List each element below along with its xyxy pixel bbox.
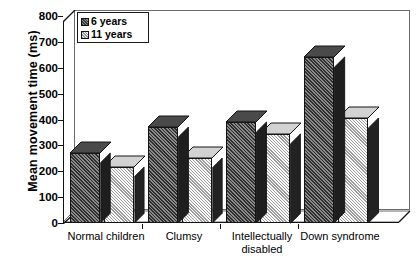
y-tick-mark-400	[58, 120, 63, 121]
bar-side-face	[178, 127, 189, 223]
y-tick-mark-300	[58, 145, 63, 146]
y-tick-mark-100	[58, 197, 63, 198]
y-tick-label-300: 300	[24, 140, 58, 150]
y-tick-label-400: 400	[24, 115, 58, 125]
bar-side-face	[290, 134, 301, 223]
bar-top-face	[226, 111, 267, 122]
bar-top-face	[148, 116, 189, 127]
bar-top-face	[304, 46, 345, 57]
x-tick-mark-3	[298, 224, 299, 229]
bar-front-face	[70, 153, 100, 223]
y-tick-mark-600	[58, 68, 63, 69]
bar-top-face	[70, 142, 111, 153]
bar-side-face	[256, 122, 267, 223]
y-tick-mark-500	[58, 94, 63, 95]
y-tick-label-800: 800	[24, 11, 58, 21]
y-tick-mark-200	[58, 171, 63, 172]
bar-6-years-3	[226, 122, 256, 223]
bar-6-years-2	[148, 127, 178, 223]
x-category-label-4: Down syndrome	[285, 230, 395, 243]
y-tick-mark-800	[58, 16, 63, 17]
legend: 6 years 11 years	[77, 12, 149, 43]
y-tick-mark-700	[58, 42, 63, 43]
x-category-label-line: Down syndrome	[285, 230, 395, 243]
y-tick-label-0: 0	[24, 218, 58, 228]
bar-side-face	[334, 57, 345, 223]
legend-label-6-years: 6 years	[91, 16, 127, 27]
y-tick-label-200: 200	[24, 166, 58, 176]
y-tick-label-700: 700	[24, 37, 58, 47]
bar-front-face	[304, 57, 334, 223]
x-tick-mark-2	[220, 224, 221, 229]
y-axis-tick-labels: 8007006005004003002001000	[22, 0, 58, 267]
bar-front-face	[148, 127, 178, 223]
x-category-label-line: disabled	[207, 243, 317, 256]
bar-chart: Mean movement time (ms) 8007006005004003…	[0, 0, 417, 267]
bar-front-face	[226, 122, 256, 223]
bar-6-years-4	[304, 57, 334, 223]
x-axis-category-labels: Normal childrenClumsyIntellectuallydisab…	[0, 228, 417, 267]
bar-side-face	[100, 153, 111, 223]
y-tick-label-100: 100	[24, 192, 58, 202]
legend-entry-6-years: 6 years	[81, 15, 145, 28]
legend-entry-11-years: 11 years	[81, 28, 145, 41]
y-tick-label-500: 500	[24, 89, 58, 99]
y-tick-label-600: 600	[24, 63, 58, 73]
bar-6-years-1	[70, 153, 100, 223]
bar-side-face	[368, 118, 379, 223]
bar-side-face	[134, 167, 145, 223]
x-tick-mark-1	[142, 224, 143, 229]
legend-swatch-icon-11-years	[81, 31, 89, 39]
legend-label-11-years: 11 years	[91, 29, 132, 40]
bar-side-face	[212, 158, 223, 223]
legend-swatch-icon-6-years	[81, 18, 89, 26]
y-tick-mark-0	[58, 223, 63, 224]
